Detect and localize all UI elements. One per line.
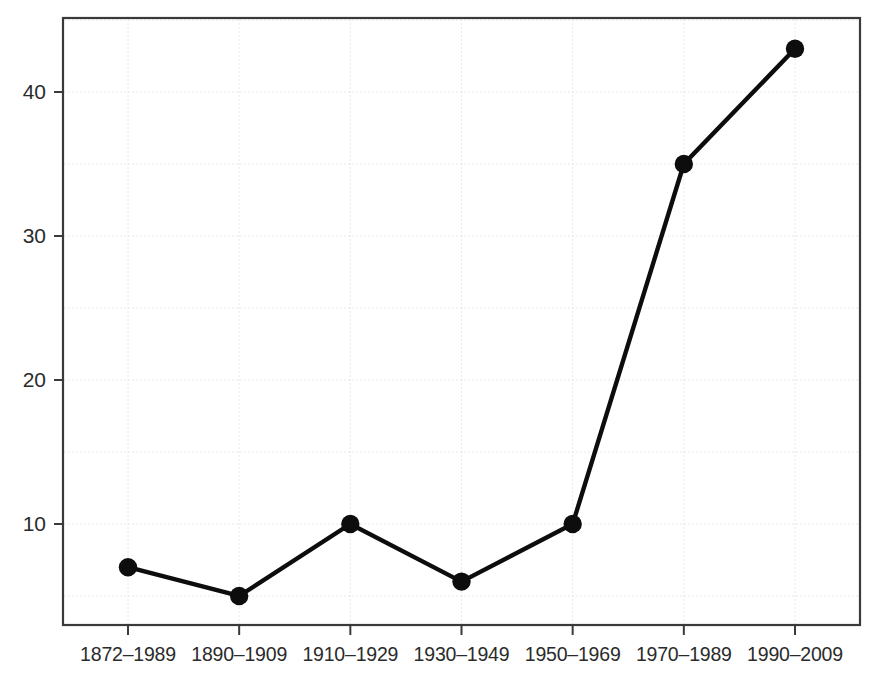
x-tick-label: 1950–1969 [525,643,621,665]
data-point-marker [119,558,137,576]
data-series-line [128,49,795,596]
x-tick-label: 1890–1909 [191,643,287,665]
x-tick-label: 1970–1989 [636,643,732,665]
y-tick-label: 30 [23,224,46,247]
y-axis-tick-labels: 10203040 [23,80,46,535]
y-tick-label: 40 [23,80,46,103]
chart-canvas: 10203040 1872–19891890–19091910–19291930… [0,0,872,683]
line-chart: 10203040 1872–19891890–19091910–19291930… [0,0,872,683]
x-tick-label: 1910–1929 [302,643,398,665]
data-point-marker [563,515,581,533]
x-tick-label: 1930–1949 [414,643,510,665]
y-axis-ticks [54,92,63,524]
gridlines-vertical [128,19,795,624]
data-point-marker [230,587,248,605]
x-axis-tick-labels: 1872–19891890–19091910–19291930–19491950… [80,643,843,665]
y-tick-label: 10 [23,512,46,535]
y-tick-label: 20 [23,368,46,391]
data-point-marker [452,572,470,590]
x-tick-label: 1990–2009 [747,643,843,665]
x-axis-ticks [128,625,795,635]
data-point-marker [675,155,693,173]
data-point-marker [341,515,359,533]
data-point-marker [786,40,804,58]
plot-area-border [63,18,860,625]
x-tick-label: 1872–1989 [80,643,176,665]
